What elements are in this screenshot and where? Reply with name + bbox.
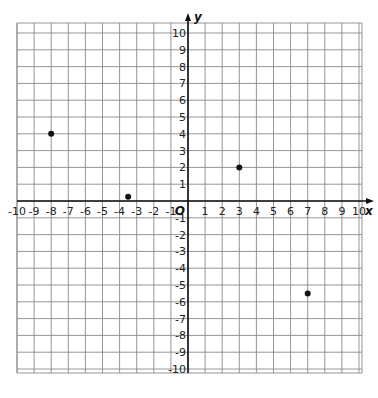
y-tick-label: 9 bbox=[179, 44, 186, 57]
x-tick-label: -7 bbox=[63, 205, 74, 218]
data-point bbox=[125, 194, 131, 200]
x-tick-label: 5 bbox=[270, 205, 277, 218]
x-tick-label: 4 bbox=[253, 205, 260, 218]
x-tick-label: -8 bbox=[46, 205, 57, 218]
y-tick-label: -9 bbox=[175, 346, 186, 359]
y-tick-label: 8 bbox=[179, 61, 186, 74]
x-tick-label: 3 bbox=[236, 205, 243, 218]
y-tick-label: 10 bbox=[172, 27, 186, 40]
x-tick-label: 8 bbox=[321, 205, 328, 218]
y-tick-label: 1 bbox=[179, 178, 186, 191]
x-tick-label: -4 bbox=[114, 205, 125, 218]
y-tick-label: -7 bbox=[175, 313, 186, 326]
y-tick-label: -4 bbox=[175, 262, 186, 275]
x-tick-label: -5 bbox=[97, 205, 108, 218]
y-tick-label: -10 bbox=[168, 363, 186, 376]
x-tick-label: 1 bbox=[202, 205, 209, 218]
x-tick-label: 10 bbox=[352, 205, 366, 218]
y-axis-label: y bbox=[194, 10, 203, 24]
y-tick-label: 5 bbox=[179, 111, 186, 124]
data-point bbox=[48, 131, 54, 137]
grid-lines bbox=[17, 23, 362, 373]
x-tick-label: -3 bbox=[131, 205, 142, 218]
x-tick-label: -6 bbox=[80, 205, 91, 218]
x-tick-label: -9 bbox=[29, 205, 40, 218]
x-tick-label: -2 bbox=[148, 205, 159, 218]
x-tick-label: -10 bbox=[8, 205, 26, 218]
x-axis-label: x bbox=[364, 204, 374, 218]
y-tick-label: -5 bbox=[175, 279, 186, 292]
origin-label: O bbox=[175, 204, 185, 218]
y-tick-label: -2 bbox=[175, 229, 186, 242]
y-tick-label: -8 bbox=[175, 329, 186, 342]
y-tick-label: 2 bbox=[179, 161, 186, 174]
x-tick-label: 6 bbox=[287, 205, 294, 218]
y-tick-label: -6 bbox=[175, 296, 186, 309]
y-axis-arrow-icon bbox=[185, 13, 191, 21]
data-point bbox=[236, 164, 242, 170]
tick-labels: -10-9-8-7-6-5-4-3-2-112345678910-10-9-8-… bbox=[8, 10, 374, 376]
y-tick-label: 3 bbox=[179, 145, 186, 158]
coordinate-plane: -10-9-8-7-6-5-4-3-2-112345678910-10-9-8-… bbox=[0, 0, 378, 398]
y-tick-label: 7 bbox=[179, 77, 186, 90]
x-tick-label: 9 bbox=[338, 205, 345, 218]
data-point bbox=[305, 290, 311, 296]
y-tick-label: -3 bbox=[175, 245, 186, 258]
y-tick-label: 6 bbox=[179, 94, 186, 107]
x-tick-label: 2 bbox=[219, 205, 226, 218]
y-tick-label: 4 bbox=[179, 128, 186, 141]
x-tick-label: 7 bbox=[304, 205, 311, 218]
